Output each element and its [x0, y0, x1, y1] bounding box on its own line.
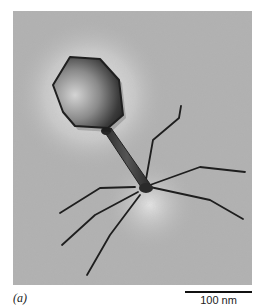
- scale-bar-label: 100 nm: [185, 294, 252, 306]
- panel-label: (a): [13, 291, 27, 306]
- scale-bar: [185, 291, 252, 293]
- phage-illustration: [13, 11, 252, 285]
- baseplate: [139, 183, 153, 193]
- micrograph-photo: [13, 11, 252, 285]
